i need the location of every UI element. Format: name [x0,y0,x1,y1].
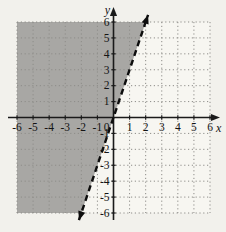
y-tick-label: -3 [100,159,110,171]
x-tick-label: -6 [12,121,22,133]
y-tick-label: -5 [100,191,110,203]
y-tick-label: -2 [100,143,110,155]
y-tick-label: -6 [100,207,110,219]
inequality-graph-figure: -6-5-4-3-2-1123456654321-1-2-3-4-5-60 x … [0,0,226,232]
x-tick-label: 1 [127,121,133,133]
x-tick-label: 5 [191,121,197,133]
inequality-graph-canvas: -6-5-4-3-2-1123456654321-1-2-3-4-5-60 x … [0,0,226,232]
x-tick-label: 6 [207,121,213,133]
x-axis-label: x [215,121,222,135]
x-tick-label: 2 [143,121,149,133]
y-tick-label: 5 [104,32,110,44]
y-axis-label: y [104,3,111,17]
x-tick-label: 4 [175,121,181,133]
x-tick-label: -2 [77,121,87,133]
graph-layers: -6-5-4-3-2-1123456654321-1-2-3-4-5-60 [8,7,220,220]
y-tick-label: 1 [104,95,110,107]
y-axis-arrowhead-icon [110,7,117,16]
x-tick-label: -4 [44,121,54,133]
y-tick-label: -4 [100,175,110,187]
y-tick-label: 4 [104,48,110,60]
x-tick-label: -5 [28,121,38,133]
origin-label: 0 [104,121,110,133]
y-tick-label: 6 [104,16,110,28]
y-tick-label: 2 [104,79,110,91]
x-tick-label: 3 [159,121,165,133]
y-tick-label: 3 [104,64,110,76]
x-tick-label: -3 [60,121,70,133]
